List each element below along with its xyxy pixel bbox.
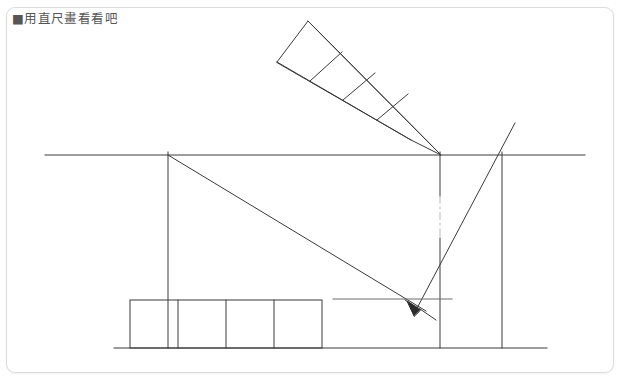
drawing-card (6, 7, 614, 373)
screenshot-root: ■用直尺畫看看吧 (0, 0, 624, 385)
page-title: ■用直尺畫看看吧 (12, 11, 118, 27)
